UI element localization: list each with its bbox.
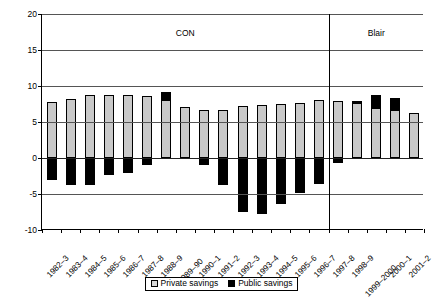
bar-segment-public <box>390 98 400 111</box>
x-tick-mark <box>42 229 43 233</box>
gridline-10 <box>42 86 423 87</box>
legend-label-private: Private savings <box>161 279 219 288</box>
bar-segment-public <box>104 158 114 175</box>
gridline--5 <box>42 194 423 195</box>
bar-segment-private <box>161 100 171 158</box>
x-tick-mark <box>61 229 62 233</box>
bar-segment-public <box>371 95 381 107</box>
y-axis-label: -5 <box>29 190 37 199</box>
bar-segment-public <box>238 158 248 212</box>
bar-segment-private <box>390 110 400 158</box>
era-divider <box>329 14 330 229</box>
bar-segment-private <box>409 113 419 158</box>
x-tick-mark <box>367 229 368 233</box>
bar-segment-public <box>123 158 133 173</box>
bar-segment-private <box>180 107 190 158</box>
x-tick-mark <box>157 229 158 233</box>
bar-segment-public <box>85 158 95 185</box>
bar-segment-private <box>371 108 381 158</box>
bar-segment-public <box>314 158 324 184</box>
legend-label-public: Public savings <box>238 279 292 288</box>
x-tick-mark <box>424 229 425 233</box>
bar-segment-public <box>142 158 152 165</box>
bar-segment-private <box>199 110 209 158</box>
x-tick-mark <box>176 229 177 233</box>
x-tick-mark <box>405 229 406 233</box>
x-tick-mark <box>118 229 119 233</box>
bar-segment-private <box>257 105 267 158</box>
y-tick-mark-10 <box>38 86 42 87</box>
y-axis-label: 5 <box>32 118 37 127</box>
x-tick-mark <box>80 229 81 233</box>
bar-segment-public <box>199 158 209 165</box>
bar-segment-private <box>104 95 114 158</box>
gridline-5 <box>42 122 423 123</box>
era-label-blair: Blair <box>368 29 385 38</box>
chart-legend: Private savings Public savings <box>145 277 299 291</box>
x-tick-mark <box>271 229 272 233</box>
bar-segment-public <box>218 158 228 185</box>
bar-segment-public <box>47 158 57 180</box>
y-tick-mark-0 <box>38 158 42 159</box>
bar-segment-private <box>85 95 95 158</box>
bar-segment-public <box>276 158 286 204</box>
x-tick-mark <box>386 229 387 233</box>
bar-segment-private <box>333 101 343 158</box>
x-tick-mark <box>309 229 310 233</box>
x-tick-mark <box>214 229 215 233</box>
bar-segment-private <box>295 103 305 158</box>
bar-segment-private <box>314 100 324 158</box>
bar-segment-public <box>66 158 76 185</box>
legend-item-private: Private savings <box>151 279 219 288</box>
bar-segment-public <box>295 158 305 193</box>
gridline-20 <box>42 14 423 15</box>
x-tick-mark <box>290 229 291 233</box>
bar-segment-private <box>123 95 133 158</box>
gridline-15 <box>42 50 423 51</box>
era-label-con: CON <box>176 29 195 38</box>
x-tick-mark <box>99 229 100 233</box>
x-tick-mark <box>138 229 139 233</box>
y-tick-mark-20 <box>38 14 42 15</box>
bar-segment-private <box>218 110 228 158</box>
y-axis-label: -10 <box>25 226 37 235</box>
plot-area: 20151050-5-10 1982–31983–41984–51985–619… <box>41 14 423 230</box>
y-tick-mark-5 <box>38 122 42 123</box>
bar-segment-private <box>142 96 152 158</box>
y-axis-label: 10 <box>28 82 37 91</box>
bar-segment-private <box>47 102 57 158</box>
legend-item-public: Public savings <box>228 279 292 288</box>
y-axis-label: 0 <box>32 154 37 163</box>
bar-segment-private <box>238 106 248 158</box>
public-swatch-icon <box>228 280 235 287</box>
private-swatch-icon <box>151 280 158 287</box>
y-axis-label: 20 <box>28 10 37 19</box>
x-tick-mark <box>252 229 253 233</box>
gridline-0 <box>42 158 423 159</box>
savings-stacked-bar-chart: 20151050-5-10 1982–31983–41984–51985–619… <box>0 0 443 302</box>
x-tick-mark <box>233 229 234 233</box>
x-tick-mark <box>329 229 330 233</box>
bar-segment-private <box>352 103 362 158</box>
x-tick-mark <box>195 229 196 233</box>
bar-segment-public <box>257 158 267 214</box>
bar-segment-public <box>161 92 171 101</box>
bar-segment-public <box>352 101 362 103</box>
x-tick-mark <box>348 229 349 233</box>
bar-segment-private <box>66 99 76 158</box>
y-axis-label: 15 <box>28 46 37 55</box>
bar-segment-private <box>276 104 286 158</box>
y-tick-mark-15 <box>38 50 42 51</box>
y-tick-mark--5 <box>38 194 42 195</box>
